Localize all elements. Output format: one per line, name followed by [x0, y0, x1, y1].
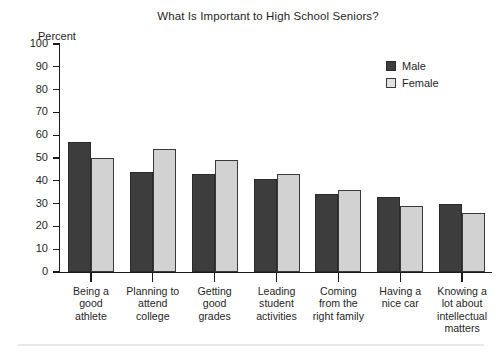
x-category-label-line: intellectual: [431, 310, 493, 322]
y-tick-label: 40: [18, 175, 48, 186]
y-tick-mark: [53, 112, 60, 113]
x-tick-mark: [214, 273, 215, 282]
x-category-label-3: Leadingstudentactivities: [246, 285, 308, 322]
x-category-label-line: right family: [307, 310, 369, 322]
x-category-label-line: Knowing a: [431, 285, 493, 297]
y-tick-label: 100: [18, 38, 48, 49]
x-tick-mark: [152, 273, 153, 282]
bar-female-4: [338, 190, 361, 272]
bar-female-1: [153, 149, 176, 272]
x-category-label-2: Gettinggoodgrades: [184, 285, 246, 322]
bar-male-3: [254, 179, 277, 272]
bar-female-6: [462, 213, 485, 272]
x-category-label-line: Coming: [307, 285, 369, 297]
y-tick-mark: [53, 203, 60, 204]
y-tick-label: 20: [18, 220, 48, 231]
x-tick-mark: [461, 273, 462, 282]
bar-male-5: [377, 197, 400, 272]
x-category-label-4: Comingfrom theright family: [307, 285, 369, 322]
x-category-label-line: Having a: [369, 285, 431, 297]
legend-item-female: Female: [386, 77, 439, 89]
y-tick-mark: [53, 66, 60, 67]
y-tick-mark: [53, 271, 60, 272]
y-tick-mark: [53, 135, 60, 136]
bar-male-4: [315, 194, 338, 272]
bar-male-0: [68, 142, 91, 272]
x-category-label-line: good: [60, 297, 122, 309]
y-tick-label: 90: [18, 61, 48, 72]
y-tick-label: 80: [18, 84, 48, 95]
legend-swatch-male-icon: [386, 61, 396, 71]
legend-label-female: Female: [402, 77, 439, 89]
bar-female-2: [215, 160, 238, 272]
y-tick-label: 50: [18, 152, 48, 163]
legend-swatch-female-icon: [386, 78, 396, 88]
x-category-label-line: from the: [307, 297, 369, 309]
bottom-divider: [18, 344, 484, 346]
y-tick-mark: [53, 249, 60, 250]
x-tick-mark: [338, 273, 339, 282]
y-tick-mark: [53, 226, 60, 227]
x-category-label-6: Knowing alot aboutintellectualmatters: [431, 285, 493, 335]
x-category-label-line: athlete: [60, 310, 122, 322]
bar-female-0: [91, 158, 114, 272]
bar-female-3: [277, 174, 300, 272]
bar-male-2: [192, 174, 215, 272]
bar-female-5: [400, 206, 423, 272]
chart-title: What Is Important to High School Seniors…: [0, 10, 502, 22]
x-category-label-line: matters: [431, 322, 493, 334]
y-tick-mark: [53, 43, 60, 44]
x-category-label-line: Getting: [184, 285, 246, 297]
x-category-label-line: Leading: [246, 285, 308, 297]
legend-label-male: Male: [402, 60, 426, 72]
legend-item-male: Male: [386, 60, 439, 72]
y-tick-label: 30: [18, 198, 48, 209]
x-category-label-line: grades: [184, 310, 246, 322]
x-category-label-line: student: [246, 297, 308, 309]
x-category-label-line: Being a: [60, 285, 122, 297]
x-category-label-1: Planning toattendcollege: [122, 285, 184, 322]
y-tick-label: 0: [18, 266, 48, 277]
y-tick-label: 10: [18, 243, 48, 254]
y-tick-label: 70: [18, 106, 48, 117]
x-category-label-line: good: [184, 297, 246, 309]
x-category-label-line: activities: [246, 310, 308, 322]
bar-male-6: [439, 204, 462, 272]
x-tick-mark: [276, 273, 277, 282]
x-category-label-line: lot about: [431, 297, 493, 309]
x-category-label-line: attend: [122, 297, 184, 309]
y-tick-mark: [53, 157, 60, 158]
y-tick-mark: [53, 89, 60, 90]
chart-legend: Male Female: [386, 60, 439, 94]
y-tick-mark: [53, 180, 60, 181]
x-category-label-line: Planning to: [122, 285, 184, 297]
x-category-label-line: nice car: [369, 297, 431, 309]
x-tick-mark: [90, 273, 91, 282]
bar-male-1: [130, 172, 153, 272]
x-category-label-5: Having anice car: [369, 285, 431, 310]
x-category-label-line: college: [122, 310, 184, 322]
x-category-label-0: Being agoodathlete: [60, 285, 122, 322]
x-tick-mark: [400, 273, 401, 282]
y-tick-label: 60: [18, 129, 48, 140]
